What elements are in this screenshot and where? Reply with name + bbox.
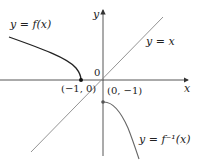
label-x-axis: x [184, 83, 190, 94]
f-curve [9, 37, 81, 80]
label-y-axis: y [93, 9, 99, 20]
finv-curve [104, 102, 139, 159]
label-point-finv: (0, −1) [107, 86, 142, 96]
label-f: y = f(x) [10, 19, 51, 30]
label-origin: 0 [94, 68, 100, 78]
point-f-endpoint [79, 78, 83, 82]
identity-line [31, 17, 163, 152]
label-finv: y = f⁻¹(x) [139, 134, 191, 145]
point-finv-endpoint [101, 100, 105, 104]
label-point-f: (−1, 0) [61, 84, 96, 94]
label-identity: y = x [146, 36, 175, 47]
